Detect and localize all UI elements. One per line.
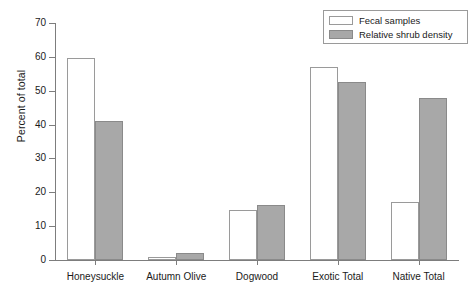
y-tick-label: 30 <box>22 152 46 163</box>
y-tick-label: 20 <box>22 186 46 197</box>
x-tick-label: Dogwood <box>236 271 278 282</box>
chart-legend: Fecal samples Relative shrub density <box>323 10 468 44</box>
x-tick-label: Native Total <box>393 271 445 282</box>
x-tick-label: Autumn Olive <box>146 271 206 282</box>
y-tick-label: 70 <box>22 17 46 28</box>
x-tick-label: Honeysuckle <box>67 271 124 282</box>
y-tick-label: 10 <box>22 220 46 231</box>
bar-chart: Percent of total 010203040506070 Honeysu… <box>0 0 475 287</box>
y-tick-label: 40 <box>22 119 46 130</box>
bar <box>148 257 176 260</box>
legend-label: Relative shrub density <box>359 29 452 40</box>
bar <box>391 202 419 260</box>
y-tick-label: 50 <box>22 85 46 96</box>
x-tick-mark <box>338 260 339 265</box>
x-tick-mark <box>257 260 258 265</box>
open-square-icon <box>329 16 353 25</box>
bar-group: Dogwood <box>217 23 298 260</box>
filled-square-icon <box>329 30 353 39</box>
bar-group: Native Total <box>378 23 459 260</box>
bar <box>419 98 447 261</box>
bar <box>338 82 366 260</box>
bar-group: Autumn Olive <box>136 23 217 260</box>
bar <box>176 253 204 260</box>
bar-group: Honeysuckle <box>55 23 136 260</box>
plot-area: 010203040506070 HoneysuckleAutumn OliveD… <box>55 23 459 260</box>
y-tick-label: 60 <box>22 51 46 62</box>
bar <box>310 67 338 260</box>
bar-groups: HoneysuckleAutumn OliveDogwoodExotic Tot… <box>55 23 459 260</box>
bar <box>95 121 123 260</box>
x-tick-mark <box>419 260 420 265</box>
bar <box>67 58 95 260</box>
bar <box>257 205 285 260</box>
legend-item-fecal-samples: Fecal samples <box>329 15 462 26</box>
bar <box>229 210 257 260</box>
y-tick-mark <box>49 260 55 261</box>
legend-item-relative-shrub-density: Relative shrub density <box>329 29 462 40</box>
x-tick-label: Exotic Total <box>312 271 363 282</box>
x-tick-mark <box>95 260 96 265</box>
legend-label: Fecal samples <box>359 15 420 26</box>
bar-group: Exotic Total <box>297 23 378 260</box>
x-tick-mark <box>176 260 177 265</box>
y-tick-label: 0 <box>22 254 46 265</box>
